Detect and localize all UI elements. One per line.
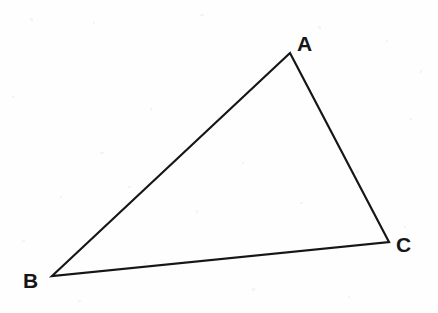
vertex-label-b: B	[23, 270, 38, 291]
vertex-label-c: C	[396, 234, 411, 255]
triangle-figure	[0, 0, 438, 313]
triangle-outline	[52, 53, 389, 276]
vertex-label-a: A	[297, 33, 312, 54]
figure-canvas: A B C	[0, 0, 438, 313]
